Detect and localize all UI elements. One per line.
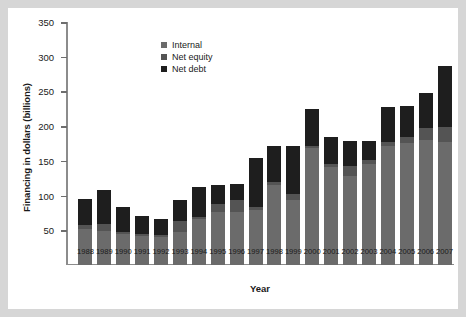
bar-segment-net-equity <box>343 166 357 176</box>
bar-segment-net-debt <box>324 137 338 165</box>
bar-segment-net-equity <box>324 164 338 167</box>
bar-segment-net-debt <box>192 187 206 217</box>
bar-segment-net-equity <box>249 207 263 210</box>
y-tick-label: 100 <box>38 190 54 201</box>
bar-1992 <box>154 218 168 265</box>
bar-segment-net-debt <box>249 158 263 207</box>
bar-segment-net-equity <box>135 234 149 235</box>
bar-segment-net-equity <box>78 225 92 228</box>
bar-segment-net-debt <box>173 200 187 222</box>
bar-segment-net-equity <box>286 194 300 200</box>
legend-label: Internal <box>172 40 202 50</box>
bar-segment-internal <box>249 210 263 265</box>
y-tick-100: 100 <box>61 196 67 198</box>
bar-segment-net-equity <box>438 127 452 142</box>
bar-segment-net-equity <box>154 235 168 236</box>
plot-area: 50100150200250300350 <box>66 22 454 265</box>
bar-segment-net-debt <box>286 146 300 194</box>
bar-1990 <box>116 207 130 265</box>
bar-segment-net-debt <box>116 207 130 231</box>
y-tick-label: 300 <box>38 51 54 62</box>
bar-segment-net-debt <box>362 141 376 160</box>
bar-segment-net-equity <box>305 146 319 149</box>
bar-segment-net-debt <box>97 190 111 224</box>
bar-segment-net-equity <box>362 160 376 163</box>
bar-segment-internal <box>230 212 244 265</box>
bar-segment-net-debt <box>135 216 149 234</box>
y-tick-label: 50 <box>43 225 54 236</box>
bar-2001 <box>324 137 338 265</box>
bar-2005 <box>400 106 414 265</box>
x-tick-label-2007: 2007 <box>430 247 460 256</box>
bar-segment-net-debt <box>438 66 452 126</box>
legend-item-net-equity[interactable]: Net equity <box>161 51 213 62</box>
bar-segment-net-debt <box>230 184 244 200</box>
y-tick-label: 350 <box>38 17 54 28</box>
bar-2007 <box>438 66 452 265</box>
x-axis-title: Year <box>66 283 454 294</box>
y-tick-50: 50 <box>61 230 67 232</box>
y-tick-label: 200 <box>38 121 54 132</box>
bar-segment-net-debt <box>343 141 357 166</box>
bar-segment-net-equity <box>211 204 225 212</box>
bar-segment-net-debt <box>267 146 281 182</box>
bar-segment-net-debt <box>154 219 168 236</box>
y-tick-200: 200 <box>61 126 67 128</box>
y-tick-150: 150 <box>61 161 67 163</box>
bar-1991 <box>135 216 149 265</box>
legend-label: Net debt <box>172 64 206 74</box>
bar-segment-net-equity <box>173 221 187 232</box>
bar-2006 <box>419 93 433 265</box>
y-tick-350: 350 <box>61 22 67 24</box>
y-tick-label: 150 <box>38 155 54 166</box>
bar-segment-net-equity <box>267 182 281 185</box>
legend-item-internal[interactable]: Internal <box>161 39 213 50</box>
chart-page: Financing in dollars (billions) 50100150… <box>0 0 466 317</box>
legend-item-net-debt[interactable]: Net debt <box>161 63 213 74</box>
bar-segment-net-debt <box>419 93 433 128</box>
y-axis-title: Financing in dollars (billions) <box>21 38 32 258</box>
bar-segment-net-debt <box>381 107 395 142</box>
y-axis-line <box>66 22 68 265</box>
bar-segment-net-debt <box>400 106 414 137</box>
bar-segment-net-equity <box>400 137 414 143</box>
bar-segment-internal <box>211 212 225 265</box>
bar-segment-net-equity <box>116 232 130 234</box>
chart-figure: Financing in dollars (billions) 50100150… <box>0 0 466 317</box>
legend-swatch-icon <box>161 66 167 72</box>
bar-segment-net-debt <box>211 185 225 204</box>
bar-segment-net-equity <box>97 224 111 231</box>
bar-segment-net-equity <box>230 200 244 212</box>
bar-2004 <box>381 107 395 265</box>
bar-2000 <box>305 109 319 265</box>
bar-segment-net-equity <box>192 217 206 219</box>
bar-segment-net-debt <box>78 199 92 225</box>
bar-segment-net-equity <box>419 128 433 140</box>
legend-label: Net equity <box>172 52 213 62</box>
chart-legend: InternalNet equityNet debt <box>161 39 213 75</box>
bar-segment-internal <box>192 219 206 265</box>
y-tick-label: 250 <box>38 86 54 97</box>
y-tick-250: 250 <box>61 91 67 93</box>
legend-swatch-icon <box>161 54 167 60</box>
legend-swatch-icon <box>161 42 167 48</box>
bar-segment-net-equity <box>381 142 395 145</box>
y-tick-300: 300 <box>61 57 67 59</box>
bar-segment-net-debt <box>305 109 319 146</box>
